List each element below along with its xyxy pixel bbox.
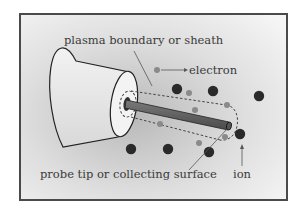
probe-tip-label: probe tip or collecting surface (40, 167, 217, 181)
ion-particle (208, 86, 218, 96)
electron-particle (186, 90, 192, 96)
ion-particle (254, 91, 264, 101)
sheath-label: plasma boundary or sheath (64, 33, 224, 47)
electron-particle (192, 107, 198, 113)
ion-particle (126, 144, 136, 154)
ion-particle (163, 144, 173, 154)
electron-label: electron (189, 63, 238, 77)
electron-particle (222, 134, 228, 140)
electron-particle (157, 121, 163, 127)
electron-particle (196, 140, 202, 146)
electron-particle (224, 102, 230, 108)
ion-particle (172, 84, 182, 94)
electron-particle (154, 67, 160, 73)
ion-particle (235, 129, 245, 139)
langmuir-probe-diagram: plasma boundary or sheath electron probe… (0, 0, 302, 217)
ion-label: ion (233, 167, 252, 181)
